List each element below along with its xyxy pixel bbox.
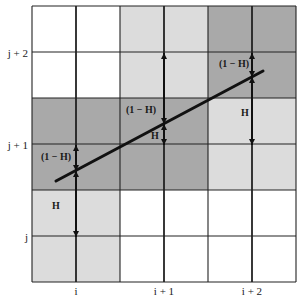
y-axis-label: j + 2 [7,47,28,59]
grid-cell-white [120,190,164,236]
label-one-minus-h: (1 − H) [126,104,156,116]
grid-cell-light [120,6,164,52]
grid-cell-light [252,144,296,190]
grid-cell-white [120,236,164,282]
x-axis-label: i + 1 [154,285,174,297]
grid-cell-light [76,190,120,236]
grid-cell-dark [32,98,76,144]
label-h: H [241,107,249,118]
grid-cell-white [252,190,296,236]
grid-cell-white [76,52,120,98]
grid-cell-dark [164,144,208,190]
grid-cell-light [32,236,76,282]
grid-cell-light [120,52,164,98]
grid-cell-dark [120,144,164,190]
grid-cell-light [32,190,76,236]
label-one-minus-h: (1 − H) [219,58,249,70]
grid-cell-white [208,236,252,282]
grid-cell-dark [208,6,252,52]
grid-cell-white [32,6,76,52]
y-axis-label: j + 1 [7,139,28,151]
grid-cell-white [252,236,296,282]
x-axis-label: i [74,285,77,297]
grid-cell-light [252,98,296,144]
grid-cell-light [208,98,252,144]
grid-cell-dark [252,6,296,52]
grid-cell-white [32,52,76,98]
grid-cell-white [76,6,120,52]
grid-cell-light [76,236,120,282]
label-one-minus-h: (1 − H) [41,151,71,163]
grid-cell-dark [76,98,120,144]
grid-cell-light [164,52,208,98]
label-h: H [151,130,159,141]
label-h: H [52,200,60,211]
grid-cell-light [164,6,208,52]
grid-cell-white [164,190,208,236]
grid-cell-white [208,190,252,236]
x-axis-label: i + 2 [242,285,262,297]
grid-cell-white [164,236,208,282]
y-axis-label: j [24,231,28,243]
volume-fraction-diagram: (1 − H)H(1 − H)H(1 − H)H ii + 1i + 2j + … [0,0,301,299]
grid-cell-light [208,144,252,190]
